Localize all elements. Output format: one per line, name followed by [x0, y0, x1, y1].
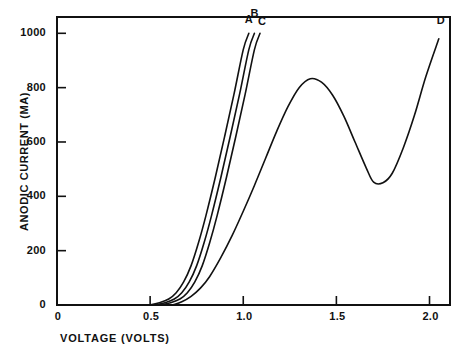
- chart-figure: 02004006008001000 00.51.01.52.0 ABCD ANO…: [0, 0, 473, 358]
- x-tick-label: 2.0: [421, 310, 441, 322]
- plot-frame: [57, 17, 450, 305]
- x-axis-title: VOLTAGE (VOLTS): [60, 332, 170, 344]
- curve-c: [161, 33, 260, 305]
- curve-label-c: C: [258, 15, 266, 27]
- x-tick-label: 0.5: [141, 310, 161, 322]
- y-tick-label: 1000: [20, 26, 46, 38]
- x-tick-label: 1.5: [327, 310, 347, 322]
- x-tick-label: 1.0: [234, 310, 254, 322]
- y-axis-title: ANODIC CURRENT (MA): [18, 92, 30, 231]
- y-tick-label: 0: [40, 298, 46, 310]
- curve-a: [150, 33, 249, 305]
- curve-b: [156, 33, 255, 305]
- y-tick-label: 800: [27, 81, 46, 93]
- curve-group: [150, 33, 439, 305]
- curve-d: [172, 39, 438, 305]
- curve-label-d: D: [437, 14, 445, 26]
- y-tick-label: 200: [27, 244, 46, 256]
- x-tick-label: 0: [48, 310, 68, 322]
- plot-area: [0, 0, 473, 358]
